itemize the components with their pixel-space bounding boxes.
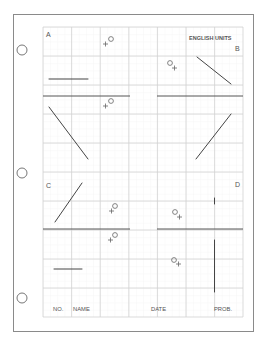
engineering-worksheet: A B C D ENGLISH UNITS NO. NAME DATE PROB…: [0, 0, 267, 343]
quadrant-label-c: C: [46, 182, 51, 189]
prob-label: PROB.: [214, 306, 232, 312]
date-label: DATE: [151, 306, 166, 312]
name-label: NAME: [73, 306, 90, 312]
units-title: ENGLISH UNITS: [189, 35, 232, 41]
quadrant-label-d: D: [235, 181, 240, 188]
quadrant-label-b: B: [235, 45, 240, 52]
no-label: NO.: [53, 306, 64, 312]
grid: [43, 27, 243, 317]
quadrant-label-a: A: [46, 31, 51, 38]
